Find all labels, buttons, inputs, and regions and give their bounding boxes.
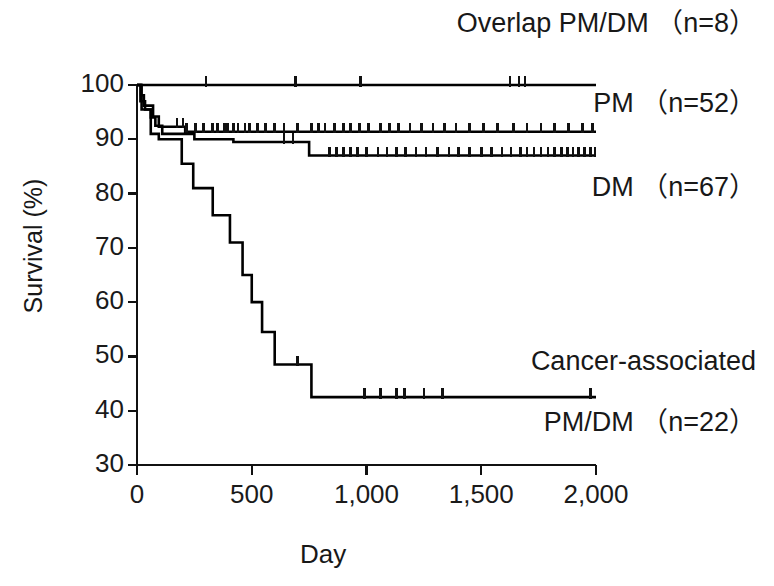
- y-tick-label: 40: [44, 394, 124, 425]
- legend-dm: DM （n=67）: [592, 172, 756, 202]
- x-tick-label: 0: [77, 479, 197, 510]
- legend-cancer-associated-pm-dm: Cancer-associated PM/DM （n=22）: [501, 316, 756, 497]
- survival-curve-2: [137, 85, 596, 156]
- legend-pm: PM （n=52）: [593, 88, 756, 118]
- y-tick-label: 50: [44, 339, 124, 370]
- y-tick-label: 100: [44, 68, 124, 99]
- x-tick-label: 2,000: [536, 479, 656, 510]
- x-tick-label: 500: [192, 479, 312, 510]
- legend-overlap-pm-dm: Overlap PM/DM （n=8）: [457, 8, 756, 38]
- y-axis-title: Survival (%): [19, 161, 47, 331]
- y-tick-label: 70: [44, 231, 124, 262]
- y-tick-label: 30: [44, 448, 124, 479]
- x-axis-title: Day: [300, 540, 346, 569]
- legend-cancer-line2: PM/DM （n=22）: [501, 407, 756, 437]
- survival-chart-figure: Survival (%) Day Overlap PM/DM （n=8） PM …: [0, 0, 774, 586]
- x-tick-label: 1,000: [307, 479, 427, 510]
- x-tick-label: 1,500: [421, 479, 541, 510]
- y-tick-label: 80: [44, 177, 124, 208]
- y-tick-label: 60: [44, 285, 124, 316]
- legend-cancer-line1: Cancer-associated: [531, 346, 756, 376]
- y-tick-label: 90: [44, 122, 124, 153]
